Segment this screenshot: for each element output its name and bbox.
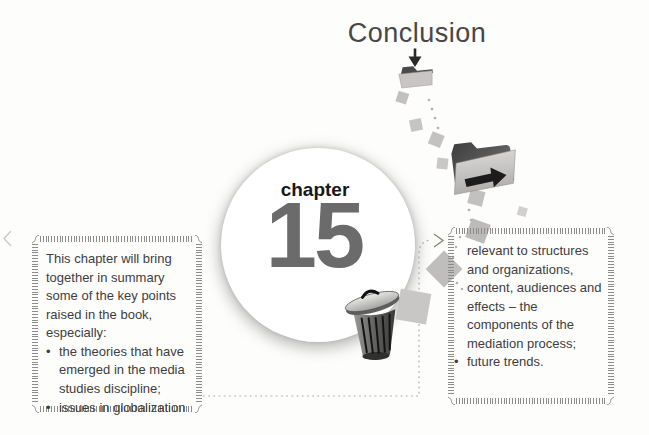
left-box-content: This chapter will bring together in summ… bbox=[46, 250, 192, 417]
corner-squiggle bbox=[194, 404, 203, 413]
down-arrow-icon bbox=[409, 49, 422, 68]
bullet-marker: • bbox=[454, 353, 467, 372]
bullet-marker: • bbox=[46, 343, 59, 399]
tick-border-right bbox=[196, 244, 202, 404]
tick-border-right bbox=[608, 236, 614, 396]
left-summary-box: This chapter will bring together in summ… bbox=[32, 236, 202, 412]
corner-squiggle bbox=[606, 396, 615, 405]
closed-folder-icon bbox=[398, 64, 434, 88]
corner-squiggle bbox=[31, 235, 40, 244]
corner-squiggle bbox=[447, 396, 456, 405]
corner-squiggle bbox=[194, 235, 203, 244]
chapter-opener-page: Conclusion chapter 15 bbox=[0, 0, 649, 435]
page-title: Conclusion bbox=[348, 18, 487, 49]
bullet-marker: • bbox=[46, 399, 59, 418]
flow-arrowhead-icon bbox=[434, 234, 443, 247]
open-folder-right-arrow-icon bbox=[448, 137, 520, 195]
corner-squiggle bbox=[447, 227, 456, 236]
right-summary-box: relevant to structures and organizations… bbox=[448, 228, 614, 404]
list-item: • the theories that have emerged in the … bbox=[46, 343, 192, 399]
bullet-text: the theories that have emerged in the me… bbox=[59, 343, 192, 399]
corner-squiggle bbox=[606, 227, 615, 236]
tick-border-top bbox=[456, 228, 606, 234]
bullet-text: issues in globalization bbox=[59, 399, 192, 418]
tick-border-bottom bbox=[456, 398, 606, 404]
corner-squiggle bbox=[31, 404, 40, 413]
left-box-intro: This chapter will bring together in summ… bbox=[46, 250, 192, 343]
tick-border-left bbox=[32, 244, 38, 404]
tick-border-top bbox=[40, 236, 194, 242]
right-box-content: relevant to structures and organizations… bbox=[454, 242, 606, 372]
right-box-continuation: relevant to structures and organizations… bbox=[467, 242, 606, 353]
list-item: • future trends. bbox=[454, 353, 606, 372]
list-item: • issues in globalization bbox=[46, 399, 192, 418]
page-edge-chevron-icon bbox=[4, 231, 11, 246]
chapter-number: 15 bbox=[249, 201, 379, 269]
bullet-text: future trends. bbox=[467, 353, 606, 372]
